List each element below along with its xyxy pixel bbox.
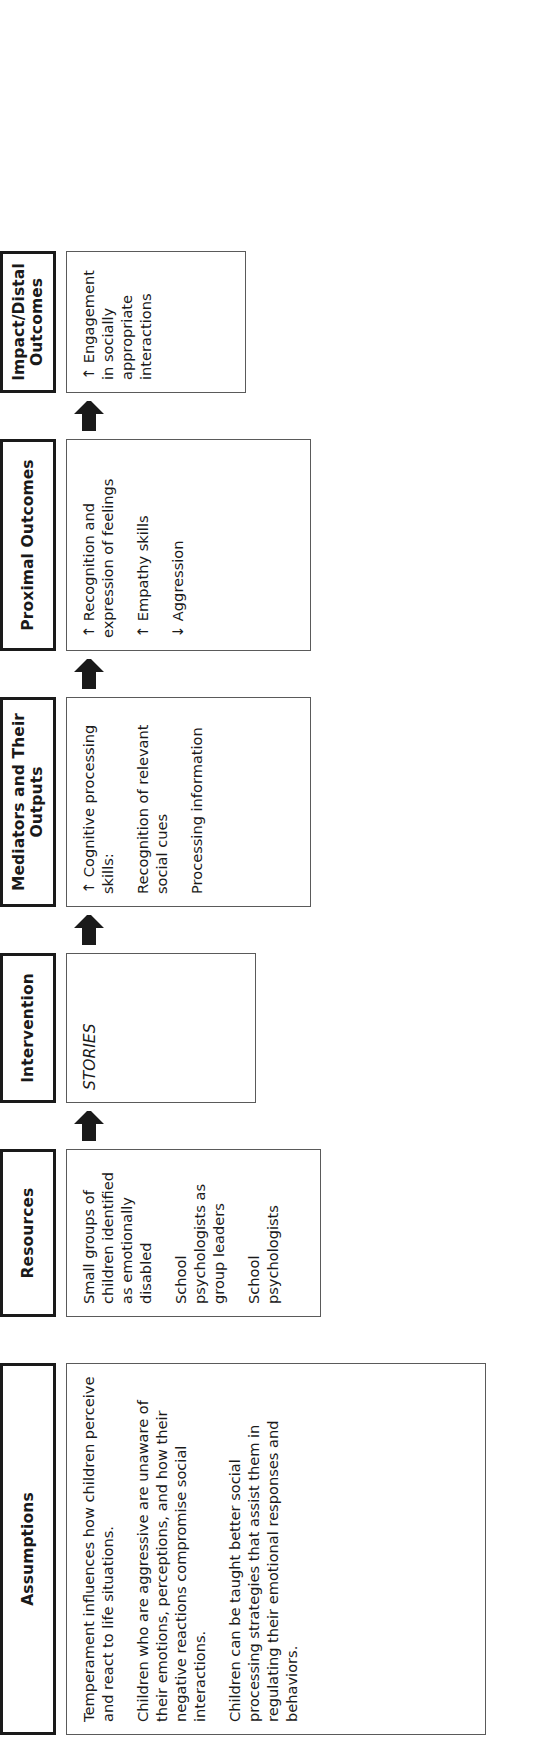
proximal-outcome-item: ↑ Empathy skills: [134, 452, 153, 638]
connector-proximal-to-impact: [0, 393, 546, 439]
rotated-figure-stage: Assumptions Temperament influences how c…: [0, 0, 546, 1761]
resource-item: School psychologists: [245, 1162, 283, 1304]
mediator-item: ↑ Cognitive processing skills:: [80, 710, 118, 894]
column-body-resources: Small groups of children identified as e…: [66, 1149, 321, 1317]
resource-item: Small groups of children identified as e…: [80, 1162, 156, 1304]
connector-resources-to-intervention: [0, 1103, 546, 1149]
column-body-proximal-outcomes: ↑ Recognition and expression of feelings…: [66, 439, 311, 651]
spacer-assumptions-resources: [0, 1317, 546, 1363]
column-mediators: Mediators and Their Outputs ↑ Cognitive …: [0, 697, 546, 907]
column-header-impact-distal-outcomes: Impact/Distal Outcomes: [0, 251, 56, 393]
up-arrow-icon: [72, 1111, 106, 1141]
mediator-item: Recognition of relevant social cues: [134, 710, 172, 894]
column-body-intervention: STORIES: [66, 953, 256, 1103]
proximal-outcome-item: ↑ Recognition and expression of feelings: [80, 452, 118, 638]
mediator-item: Processing information: [188, 710, 207, 894]
column-header-proximal-outcomes: Proximal Outcomes: [0, 439, 56, 651]
column-header-mediators: Mediators and Their Outputs: [0, 697, 56, 907]
resource-item: School psychologists as group leaders: [172, 1162, 229, 1304]
assumption-item: Children who are aggressive are unaware …: [134, 1376, 210, 1722]
assumption-item: Temperament influences how children perc…: [80, 1376, 118, 1722]
column-assumptions: Assumptions Temperament influences how c…: [0, 1363, 546, 1735]
column-header-assumptions: Assumptions: [0, 1363, 56, 1735]
assumption-item: Children can be taught better social pro…: [226, 1376, 302, 1722]
column-body-impact-distal-outcomes: ↑ Engagement in socially appropriate int…: [66, 251, 246, 393]
column-intervention: Intervention STORIES: [0, 953, 546, 1103]
column-header-resources: Resources: [0, 1149, 56, 1317]
connector-mediators-to-proximal: [0, 651, 546, 697]
connector-intervention-to-mediators: [0, 907, 546, 953]
column-proximal-outcomes: Proximal Outcomes ↑ Recognition and expr…: [0, 439, 546, 651]
up-arrow-icon: [72, 401, 106, 431]
column-resources: Resources Small groups of children ident…: [0, 1149, 546, 1317]
column-impact-distal-outcomes: Impact/Distal Outcomes ↑ Engagement in s…: [0, 251, 546, 393]
logic-model-diagram: Assumptions Temperament influences how c…: [0, 0, 546, 1761]
proximal-outcome-item: ↓ Aggression: [169, 452, 188, 638]
column-body-assumptions: Temperament influences how children perc…: [66, 1363, 486, 1735]
up-arrow-icon: [72, 659, 106, 689]
impact-outcome-item: ↑ Engagement in socially appropriate int…: [80, 264, 156, 380]
up-arrow-icon: [72, 915, 106, 945]
column-header-intervention: Intervention: [0, 953, 56, 1103]
column-body-mediators: ↑ Cognitive processing skills: Recogniti…: [66, 697, 311, 907]
intervention-item: STORIES: [80, 966, 100, 1090]
